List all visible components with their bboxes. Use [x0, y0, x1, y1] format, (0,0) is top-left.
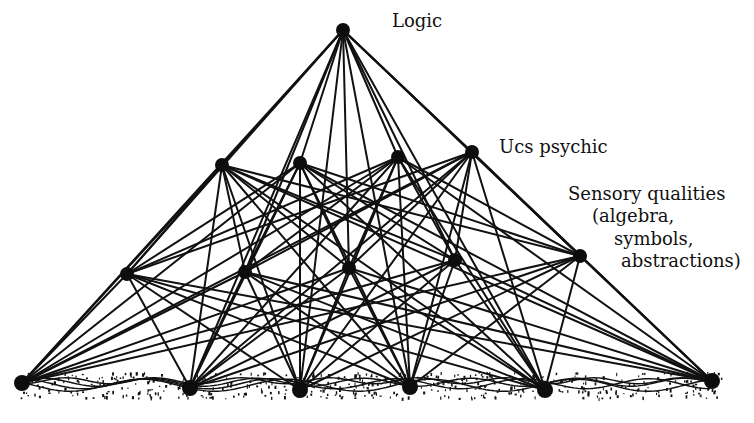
ground-speck: [54, 381, 55, 385]
ground-speck: [120, 378, 122, 380]
ground-speck: [266, 381, 267, 384]
ground-speck: [147, 393, 148, 395]
ground-speck: [445, 389, 446, 391]
label-logic: Logic: [392, 10, 442, 32]
ground-speck: [433, 383, 434, 386]
ground-speck: [102, 394, 104, 397]
ground-speck: [571, 379, 573, 382]
ground-speck: [271, 397, 272, 400]
ground-speck: [222, 388, 224, 390]
ground-speck: [587, 394, 589, 397]
ground-speck: [247, 385, 248, 388]
ground-speck: [63, 381, 64, 383]
node-sensory-qualities-2: [238, 265, 252, 279]
ground-speck: [252, 377, 253, 379]
ground-speck: [669, 383, 671, 385]
ground-speck: [327, 386, 328, 389]
ground-speck: [330, 386, 331, 389]
ground-speck: [323, 389, 325, 392]
ground-speck: [336, 391, 337, 394]
ground-speck: [390, 397, 391, 399]
ground-speck: [268, 386, 270, 389]
ground-speck: [111, 377, 113, 380]
ground-speck: [210, 393, 212, 396]
ground-speck: [339, 389, 341, 392]
ground-speck: [270, 392, 272, 394]
ground-speck: [313, 386, 315, 388]
ground-speck: [68, 378, 69, 380]
ground-speck: [179, 386, 181, 389]
ground-speck: [326, 397, 328, 398]
ground-speck: [582, 391, 584, 393]
ground-speck: [354, 398, 356, 400]
ground-speck: [471, 398, 472, 401]
ground-speck: [560, 391, 561, 392]
ground-speck: [58, 377, 59, 379]
ground-speck: [603, 388, 604, 391]
ground-speck: [23, 392, 25, 394]
ground-speck: [437, 390, 439, 391]
ground-speck: [358, 372, 359, 375]
ground-speck: [693, 390, 694, 392]
ground-speck: [297, 377, 299, 378]
ground-speck: [495, 397, 496, 400]
ground-speck: [542, 377, 544, 378]
ground-speck: [320, 396, 321, 398]
ground-speck: [562, 391, 564, 393]
ground-speck: [77, 393, 78, 396]
node-ucs-psychic-4: [465, 145, 479, 159]
ground-speck: [92, 386, 94, 387]
ground-speck: [284, 386, 286, 388]
ground-speck: [272, 379, 273, 381]
node-ground-3: [292, 382, 308, 398]
ground-speck: [359, 379, 361, 381]
ground-speck: [117, 380, 119, 383]
ground-speck: [623, 393, 624, 394]
ground-speck: [140, 391, 141, 394]
ground-speck: [21, 397, 23, 399]
ground-speck: [437, 382, 439, 385]
ground-speck: [290, 379, 292, 382]
ground-speck: [249, 385, 250, 388]
ground-speck: [424, 377, 426, 380]
ground-speck: [285, 389, 287, 390]
ground-speck: [339, 395, 341, 397]
ground-speck: [37, 385, 39, 387]
node-ucs-psychic-2: [293, 156, 307, 170]
ground-speck: [35, 381, 37, 383]
ground-speck: [621, 380, 622, 383]
ground-speck: [350, 386, 352, 387]
ground-speck: [644, 384, 645, 385]
ground-speck: [481, 395, 482, 397]
ground-speck: [716, 396, 718, 399]
ground-speck: [271, 382, 272, 385]
ground-speck: [136, 372, 138, 376]
ground-speck: [390, 383, 391, 386]
ground-speck: [256, 386, 258, 388]
ground-speck: [700, 388, 702, 391]
ground-speck: [514, 372, 515, 374]
ground-speck: [236, 384, 237, 385]
node-ground-5: [537, 382, 553, 398]
ground-speck: [431, 373, 433, 376]
edge: [22, 163, 300, 383]
ground-speck: [666, 388, 668, 391]
ground-speck: [99, 383, 101, 385]
ground-speck: [450, 387, 452, 390]
label-sensory-qualities-2: (algebra,: [592, 205, 674, 227]
ground-speck: [684, 380, 685, 382]
ground-speck: [149, 380, 150, 383]
ground-speck: [380, 383, 382, 384]
ground-speck: [106, 393, 108, 395]
ground-speck: [135, 383, 136, 384]
ground-speck: [463, 378, 465, 380]
ground-speck: [264, 373, 266, 375]
ground-speck: [657, 390, 659, 392]
ground-speck: [515, 394, 517, 396]
ground-speck: [371, 374, 372, 376]
ground-speck: [146, 376, 148, 377]
ground-speck: [690, 380, 692, 382]
ground-speck: [581, 386, 583, 388]
ground-speck: [112, 372, 114, 375]
ground-speck: [133, 377, 135, 379]
